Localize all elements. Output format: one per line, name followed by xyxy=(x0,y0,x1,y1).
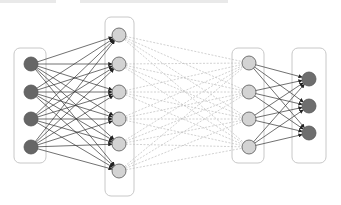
edge xyxy=(31,92,113,140)
edge xyxy=(119,64,243,116)
connections xyxy=(31,35,304,171)
edge xyxy=(249,63,304,128)
edge xyxy=(249,63,303,102)
neuron-output xyxy=(302,126,316,140)
neuron-hidden-1 xyxy=(112,137,126,151)
edge xyxy=(119,144,242,147)
edge xyxy=(31,64,112,90)
neuron-hidden-1 xyxy=(112,85,126,99)
edge xyxy=(31,147,112,169)
neuron-input xyxy=(24,85,38,99)
neuron-output xyxy=(302,99,316,113)
neuron-hidden-2 xyxy=(242,140,256,154)
edge xyxy=(119,92,242,118)
edge xyxy=(249,110,303,147)
neuron-input xyxy=(24,112,38,126)
edge xyxy=(119,35,244,142)
edge xyxy=(119,64,242,91)
edge xyxy=(31,119,112,142)
edge xyxy=(119,35,243,115)
edge xyxy=(119,64,243,143)
edge xyxy=(119,66,243,119)
edge xyxy=(119,93,242,119)
neural-network-diagram xyxy=(0,0,341,205)
edge xyxy=(31,39,113,92)
edge xyxy=(119,92,243,144)
edge xyxy=(249,119,302,131)
neuron-hidden-2 xyxy=(242,56,256,70)
neuron-hidden-1 xyxy=(112,164,126,178)
neuron-hidden-2 xyxy=(242,85,256,99)
edge xyxy=(119,35,242,62)
edge xyxy=(249,135,302,147)
neuron-hidden-2 xyxy=(242,112,256,126)
edge xyxy=(119,63,242,64)
neuron-input xyxy=(24,140,38,154)
neuron-input xyxy=(24,57,38,71)
edge xyxy=(249,63,302,77)
edge xyxy=(31,144,112,147)
layer-boxes xyxy=(14,17,326,196)
neuron-hidden-1 xyxy=(112,28,126,42)
edge xyxy=(119,35,243,89)
edge xyxy=(31,94,112,119)
neuron-hidden-1 xyxy=(112,57,126,71)
neuron-hidden-1 xyxy=(112,112,126,126)
edge xyxy=(249,83,303,119)
edge xyxy=(31,37,112,64)
neuron-output xyxy=(302,72,316,86)
edge xyxy=(249,92,303,129)
